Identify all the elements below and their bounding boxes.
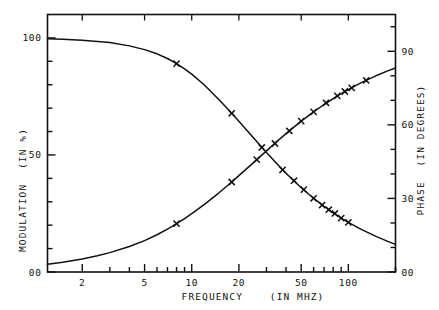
data-point-marker: [349, 85, 355, 91]
x-tick-label: 10: [185, 277, 198, 288]
data-series-layer: [48, 39, 396, 264]
data-point-marker: [363, 77, 369, 83]
data-point-marker: [272, 140, 278, 146]
right-axis-title: PHASE (IN DEGREES): [415, 85, 426, 216]
data-point-marker: [338, 215, 344, 221]
x-tick-label: 20: [233, 277, 246, 288]
data-point-marker: [326, 207, 332, 213]
data-point-marker: [286, 128, 292, 134]
x-axis-title: FREQUENCY (IN MHZ): [182, 291, 325, 302]
series-curve-phase: [48, 68, 396, 264]
right-axis-tick-labels: 00306090: [402, 46, 415, 278]
left-tick-label: 50: [29, 149, 42, 160]
right-tick-label: 00: [402, 267, 415, 278]
left-tick-label: 00: [29, 267, 42, 278]
chart-canvas: 0050100 00306090 25102050100 MODULATION …: [0, 0, 439, 310]
data-point-marker: [332, 210, 338, 216]
right-tick-label: 90: [402, 46, 415, 57]
data-point-marker: [279, 167, 285, 173]
right-axis-title-units: (IN DEGREES): [415, 85, 426, 167]
series-curve-modulation: [48, 39, 396, 245]
data-point-marker: [311, 195, 317, 201]
data-point-marker: [291, 178, 297, 184]
x-tick-label: 2: [79, 277, 85, 288]
right-tick-label: 60: [402, 119, 415, 130]
data-point-marker: [254, 157, 260, 163]
left-axis-title-text: MODULATION: [17, 184, 28, 252]
frequency-response-plot: 0050100 00306090 25102050100 MODULATION …: [0, 0, 439, 310]
plot-frame: [48, 15, 396, 273]
bottom-axis-tick-labels: 25102050100: [79, 277, 358, 288]
data-point-marker: [229, 110, 235, 116]
data-point-marker: [345, 219, 351, 225]
right-tick-label: 30: [402, 193, 415, 204]
data-point-marker: [301, 187, 307, 193]
data-point-marker: [298, 118, 304, 124]
right-axis-ticks: [388, 27, 396, 272]
x-tick-label: 50: [295, 277, 308, 288]
x-axis-title-text: FREQUENCY: [182, 291, 243, 302]
data-point-marker: [319, 202, 325, 208]
x-tick-label: 100: [339, 277, 358, 288]
data-point-marker: [229, 179, 235, 185]
data-point-marker: [311, 109, 317, 115]
bottom-axis-ticks: [82, 264, 395, 272]
data-point-marker: [259, 144, 265, 150]
left-axis-ticks: [48, 38, 56, 272]
x-tick-label: 5: [141, 277, 147, 288]
left-axis-title: MODULATION (IN %): [17, 128, 28, 252]
data-point-marker: [173, 61, 179, 67]
data-point-marker: [334, 93, 340, 99]
left-axis-title-units: (IN %): [17, 128, 28, 169]
left-tick-label: 100: [23, 32, 42, 43]
x-axis-title-units: (IN MHZ): [270, 291, 325, 302]
top-axis-ticks: [82, 15, 348, 21]
data-point-marker: [173, 221, 179, 227]
data-point-marker: [323, 100, 329, 106]
right-axis-title-text: PHASE: [415, 181, 426, 215]
data-point-marker: [342, 88, 348, 94]
